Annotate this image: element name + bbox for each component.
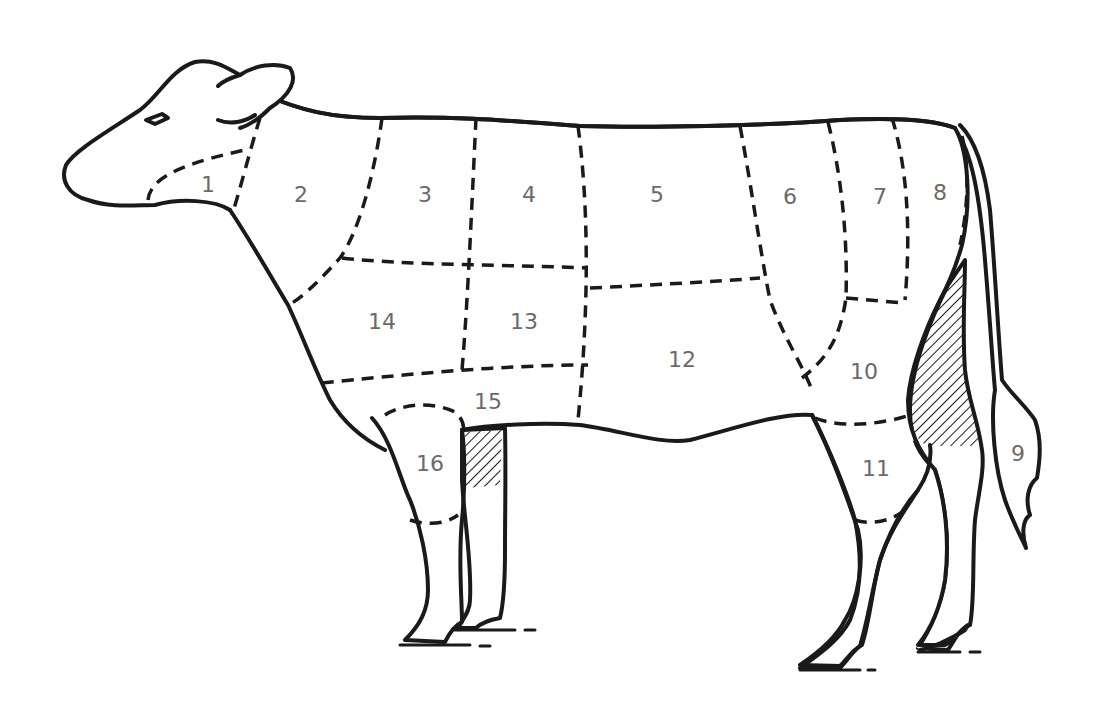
far-front-leg [455,428,535,630]
label-10: 10 [850,359,878,384]
cow-head [64,61,293,210]
label-8: 8 [933,180,947,205]
label-2: 2 [294,182,308,207]
label-13: 13 [510,309,538,334]
label-11: 11 [862,456,890,481]
label-4: 4 [522,182,536,207]
front-hatch-shading [465,430,502,488]
label-16: 16 [416,451,444,476]
label-9: 9 [1011,441,1025,466]
label-7: 7 [873,184,887,209]
label-5: 5 [650,182,664,207]
label-6: 6 [783,184,797,209]
label-3: 3 [418,182,432,207]
beef-cuts-diagram: 1 2 3 4 5 6 7 8 9 10 11 12 13 14 15 16 [0,0,1108,711]
label-12: 12 [668,347,696,372]
label-15: 15 [474,389,502,414]
label-14: 14 [368,309,396,334]
label-1: 1 [201,172,215,197]
